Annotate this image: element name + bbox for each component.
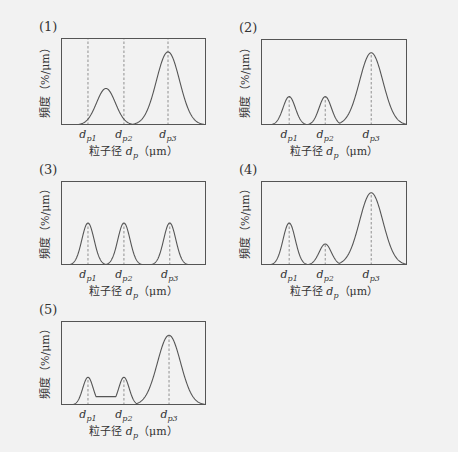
x-axis-label: 粒子径 dp（μm） (89, 142, 177, 160)
plot-frame (62, 322, 206, 405)
x-tick-label: dp1 (281, 268, 298, 283)
plot-area (261, 181, 407, 265)
x-tick-label: dp2 (115, 268, 132, 283)
distribution-curve (261, 193, 407, 265)
y-axis-label: 頻度（%/μm） (36, 46, 52, 118)
panel-label: (4) (239, 162, 257, 177)
x-tick-label: dp3 (159, 128, 176, 143)
panel-label: (5) (39, 302, 57, 317)
x-tick-label: dp1 (281, 128, 298, 143)
x-axis-label: 粒子径 dp（μm） (89, 282, 177, 300)
x-tick-label: dp2 (115, 408, 132, 423)
x-axis-label: 粒子径 dp（μm） (89, 422, 177, 440)
x-tick-label: dp2 (317, 128, 334, 143)
y-axis-label: 頻度（%/μm） (236, 46, 252, 118)
x-axis-label: 粒子径 dp（μm） (290, 142, 378, 160)
distribution-curve (261, 53, 407, 125)
plot-frame (62, 39, 206, 125)
plot-area (61, 181, 206, 265)
distribution-curve (61, 52, 206, 125)
x-tick-label: dp2 (115, 128, 132, 143)
x-axis-label: 粒子径 dp（μm） (290, 282, 378, 300)
plot-area (61, 321, 206, 405)
plot-area (61, 38, 206, 125)
distribution-curve (61, 223, 206, 265)
x-tick-label: dp3 (160, 408, 177, 423)
distribution-curve (61, 335, 206, 405)
plot-area (261, 39, 407, 125)
y-axis-label: 頻度（%/μm） (236, 187, 252, 259)
x-tick-label: dp3 (363, 128, 380, 143)
panel-label: (2) (239, 20, 257, 35)
x-tick-label: dp1 (79, 128, 96, 143)
x-tick-label: dp3 (363, 268, 380, 283)
panel-label: (1) (39, 19, 57, 34)
y-axis-label: 頻度（%/μm） (36, 327, 52, 399)
x-tick-label: dp3 (161, 268, 178, 283)
y-axis-label: 頻度（%/μm） (36, 187, 52, 259)
panel-label: (3) (39, 162, 57, 177)
x-tick-label: dp1 (79, 408, 96, 423)
plot-frame (262, 182, 407, 265)
x-tick-label: dp2 (317, 268, 334, 283)
plot-frame (262, 40, 407, 125)
x-tick-label: dp1 (79, 268, 96, 283)
